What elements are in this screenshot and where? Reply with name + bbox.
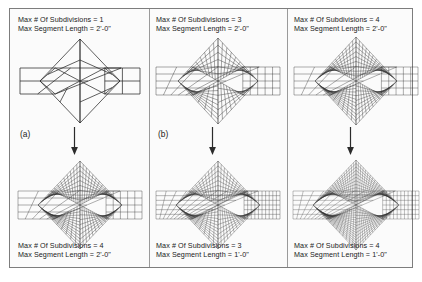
caption-col-b-top: Max # Of Subdivisions = 3 Max Segment Le…: [156, 15, 249, 33]
mesh-diagram-b-refined: [152, 159, 284, 251]
panel-letter-a: (a): [20, 129, 30, 139]
mesh-diagram-a-coarse: [14, 35, 146, 127]
mesh-diagram-c-refined: [290, 159, 422, 251]
refine-arrow-c: [346, 127, 355, 155]
refine-arrow-a: [70, 127, 79, 155]
mesh-diagram-c-coarse: [290, 35, 422, 127]
mesh-diagram-a-refined: [14, 159, 146, 251]
panel-divider-2: [287, 9, 288, 267]
caption-col-a-bottom: Max # Of Subdivisions = 4 Max Segment Le…: [18, 241, 111, 259]
caption-col-b-bottom: Max # Of Subdivisions = 3 Max Segment Le…: [156, 241, 249, 259]
panel-letter-b: (b): [158, 129, 168, 139]
caption-col-a-top: Max # Of Subdivisions = 1 Max Segment Le…: [18, 15, 111, 33]
refine-arrow-b: [208, 127, 217, 155]
mesh-diagram-b-coarse: [152, 35, 284, 127]
figure-frame: Max # Of Subdivisions = 1 Max Segment Le…: [9, 8, 413, 268]
caption-col-c-top: Max # Of Subdivisions = 4 Max Segment Le…: [294, 15, 387, 33]
panel-divider-1: [149, 9, 150, 267]
caption-col-c-bottom: Max # Of Subdivisions = 4 Max Segment Le…: [294, 241, 387, 259]
